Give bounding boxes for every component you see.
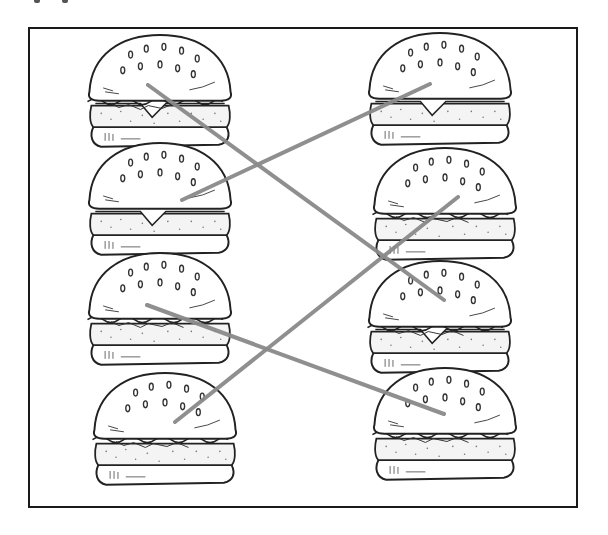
burger-right-r4[interactable] [372,368,516,480]
burger-right-r2[interactable] [372,148,516,260]
burger-right-r3[interactable] [367,261,511,373]
burger-left-l2[interactable] [89,143,231,255]
matching-canvas [0,0,608,535]
burger-right-r1[interactable] [369,33,511,145]
